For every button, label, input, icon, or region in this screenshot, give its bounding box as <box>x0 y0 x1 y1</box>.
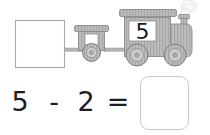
smoke-icon <box>179 0 198 17</box>
equation-equals-sign: = <box>106 88 130 115</box>
train-car-locomotive: 5 <box>120 0 199 66</box>
equation-row: 5 - 2 = <box>0 72 210 135</box>
train-svg: 5 <box>0 0 210 72</box>
answer-value <box>141 77 188 129</box>
math-worksheet: 5 5 - 2 = <box>0 0 210 135</box>
equation-right-number: 2 <box>74 88 98 115</box>
train-car-empty-boxcar <box>16 21 65 68</box>
equation-minus-operator: - <box>42 88 66 115</box>
locomotive-number: 5 <box>136 19 150 44</box>
equation-left-number: 5 <box>8 88 32 115</box>
train-car-small-wagon <box>75 26 109 62</box>
answer-input-box[interactable] <box>140 76 189 130</box>
train-illustration: 5 <box>0 0 210 72</box>
